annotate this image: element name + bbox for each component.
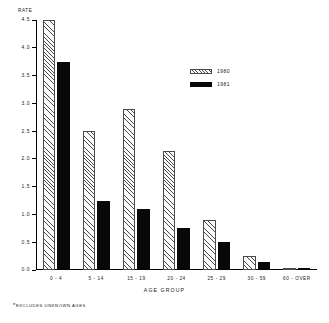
plot-area xyxy=(36,20,317,270)
bar-chart: RATE 0.00.51.01.52.02.53.03.54.04.5 0 - … xyxy=(0,0,329,323)
bar-1981 xyxy=(137,209,150,270)
y-tick-label: 2.5 xyxy=(8,128,30,134)
bar-1981 xyxy=(218,242,231,270)
bar-1981 xyxy=(258,262,271,270)
bar-1981 xyxy=(177,228,190,270)
legend-label: 1981 xyxy=(217,81,230,87)
bar-1980 xyxy=(163,151,176,270)
x-tick-label: 20 - 24 xyxy=(156,276,196,281)
legend-swatch-hatched-icon xyxy=(190,69,212,75)
x-tick-label: 15 - 19 xyxy=(116,276,156,281)
x-tick-label: 60 - OVER xyxy=(277,276,317,281)
y-tick-label: 1.0 xyxy=(8,211,30,217)
y-tick-label: 0.0 xyxy=(8,266,30,272)
legend-swatch-solid-icon xyxy=(190,82,212,88)
footnote: *EXCLUDES UNKNOWN AGES xyxy=(13,303,86,308)
bar-1981 xyxy=(97,201,110,270)
x-tick-label: 5 - 14 xyxy=(76,276,116,281)
bar-1980 xyxy=(283,268,296,270)
bar-1980 xyxy=(83,131,96,270)
x-axis-title: AGE GROUP xyxy=(0,287,329,293)
x-tick-label: 30 - 59 xyxy=(237,276,277,281)
bar-group xyxy=(237,20,277,270)
bar-group xyxy=(197,20,237,270)
bar-group xyxy=(36,20,76,270)
bar-group xyxy=(116,20,156,270)
x-tick-label: 25 - 29 xyxy=(197,276,237,281)
y-tick-label: 4.0 xyxy=(8,44,30,50)
x-tick-label: 0 - 4 xyxy=(36,276,76,281)
bar-1980 xyxy=(203,220,216,270)
bar-1980 xyxy=(123,109,136,270)
y-tick-label: 3.5 xyxy=(8,72,30,78)
bar-group xyxy=(76,20,116,270)
y-tick-label: 3.0 xyxy=(8,100,30,106)
bar-group xyxy=(156,20,196,270)
bar-1980 xyxy=(243,256,256,270)
y-tick-label: 0.5 xyxy=(8,239,30,245)
footnote-text: EXCLUDES UNKNOWN AGES xyxy=(16,303,86,308)
bar-1981 xyxy=(298,268,311,270)
y-axis-title: RATE xyxy=(18,8,32,13)
legend-label: 1980 xyxy=(217,68,230,74)
y-tick-label: 2.0 xyxy=(8,155,30,161)
bar-1980 xyxy=(43,20,56,270)
y-tick-label: 4.5 xyxy=(8,16,30,22)
bar-1981 xyxy=(57,62,70,270)
y-tick-label: 1.5 xyxy=(8,183,30,189)
bar-group xyxy=(277,20,317,270)
